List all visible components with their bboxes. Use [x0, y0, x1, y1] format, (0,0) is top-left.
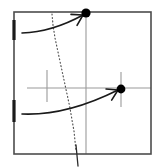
figure-root	[0, 0, 161, 168]
marker-top	[81, 8, 90, 17]
figure-background	[0, 0, 161, 168]
marker-right	[117, 85, 126, 94]
figure-canvas	[0, 0, 161, 168]
